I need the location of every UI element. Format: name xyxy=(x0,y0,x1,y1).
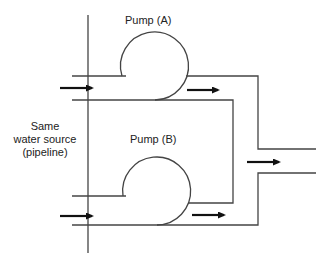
source-label-line1: Same xyxy=(0,120,90,133)
pump-b-outlet-outer xyxy=(157,173,316,225)
pump-a-label: Pump (A) xyxy=(125,14,171,27)
pump-a-outlet-inner xyxy=(155,100,233,203)
pump-a-volute xyxy=(120,32,188,100)
pump-b-label: Pump (B) xyxy=(130,133,176,146)
pump-b-volute xyxy=(123,157,191,225)
source-label: Same water source (pipeline) xyxy=(0,120,90,159)
pump-a-outlet-outer xyxy=(186,76,316,149)
source-label-line2: water source xyxy=(0,133,90,146)
source-label-line3: (pipeline) xyxy=(0,146,90,159)
